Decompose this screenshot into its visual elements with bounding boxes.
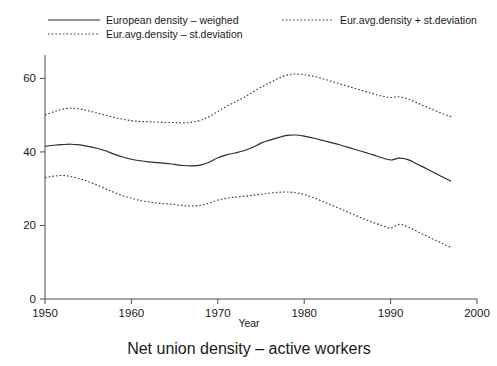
x-axis-tick-label: 1990 [378,307,404,319]
chart-series [45,74,451,248]
x-axis-tick-label: 1960 [119,307,145,319]
legend-label: European density – weighed [106,14,239,26]
figure-caption: Net union density – active workers [127,340,371,357]
y-axis-tick-label: 40 [23,146,36,158]
x-axis-tick-label: 1950 [32,307,58,319]
y-axis-tick-label: 0 [30,293,36,305]
line-chart: European density – weighedEur.avg.densit… [0,0,497,366]
legend-label: Eur.avg.density – st.deviation [106,28,243,40]
x-axis-tick-label: 1980 [291,307,317,319]
legend-label: Eur.avg.density + st.deviation [340,14,477,26]
x-axis-tick-label: 1970 [205,307,231,319]
chart-axes: 0204060195019601970198019902000 [23,55,490,319]
x-axis-title: Year [238,317,260,329]
series-line [45,175,451,247]
chart-legend: European density – weighedEur.avg.densit… [48,14,477,40]
series-line [45,135,451,181]
chart-figure: European density – weighedEur.avg.densit… [0,0,497,366]
series-line [45,74,451,123]
y-axis-tick-label: 20 [23,219,36,231]
y-axis-tick-label: 60 [23,72,36,84]
x-axis-tick-label: 2000 [464,307,490,319]
